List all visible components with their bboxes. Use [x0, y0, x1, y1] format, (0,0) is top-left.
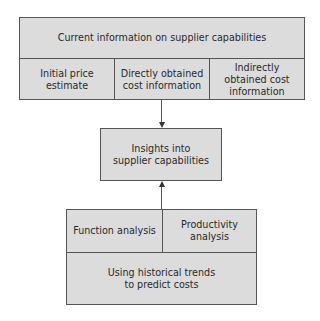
bottom-box-analysis: Function analysis Productivity analysis … [66, 209, 257, 305]
top-box-header: Current information on supplier capabili… [20, 18, 304, 58]
top-box-col-indirect-cost: Indirectly obtained cost information [210, 59, 304, 100]
middle-box-insights: Insights into supplier capabilities [100, 128, 222, 181]
bottom-box-col-productivity-analysis: Productivity analysis [163, 210, 256, 252]
middle-box-label: Insights into supplier capabilities [101, 129, 221, 180]
top-box-col-initial-price: Initial price estimate [20, 59, 114, 100]
arrow-top-to-middle [161, 100, 162, 122]
bottom-box-col-function-analysis: Function analysis [67, 210, 162, 252]
top-box-col-direct-cost: Directly obtained cost information [115, 59, 209, 100]
bottom-box-footer: Using historical trends to predict costs [67, 253, 256, 304]
arrow-bottom-to-middle [161, 187, 162, 209]
top-box-current-information: Current information on supplier capabili… [19, 17, 305, 100]
